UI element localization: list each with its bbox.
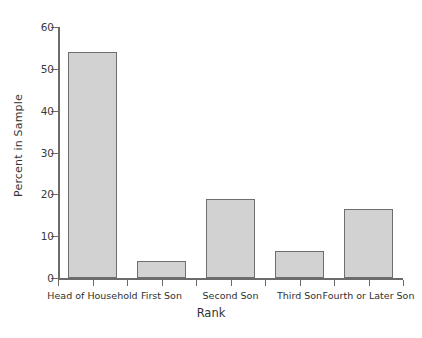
x-tick-mark-center: [369, 280, 370, 286]
x-tick-mark-center: [231, 280, 232, 286]
y-tick-label: 0: [47, 272, 54, 284]
x-tick-mark-center: [300, 280, 301, 286]
x-tick-mark: [58, 280, 59, 286]
x-category-label: Head of Household: [47, 290, 137, 301]
plot-area: 0102030405060 Head of HouseholdFirst Son…: [58, 27, 403, 278]
x-tick-mark: [127, 280, 128, 286]
x-category-label: First Son: [141, 290, 182, 301]
y-axis-line: [58, 27, 60, 278]
y-axis-title: Percent in Sample: [6, 0, 32, 290]
y-tick-label: 50: [41, 63, 54, 75]
x-category-label: Second Son: [203, 290, 259, 301]
x-tick-mark: [334, 280, 335, 286]
x-tick-mark: [265, 280, 266, 286]
x-tick-mark-center: [162, 280, 163, 286]
y-axis-title-text: Percent in Sample: [13, 93, 26, 196]
x-tick-mark: [196, 280, 197, 286]
x-tick-mark-center: [93, 280, 94, 286]
y-tick-label: 20: [41, 188, 54, 200]
x-category-label: Third Son: [277, 290, 322, 301]
bar: [344, 209, 394, 278]
y-tick-label: 10: [41, 230, 54, 242]
bar-chart-figure: Percent in Sample 0102030405060 Head of …: [0, 0, 422, 338]
y-tick-label: 30: [41, 147, 54, 159]
x-axis-title: Rank: [0, 306, 422, 320]
y-tick-label: 40: [41, 105, 54, 117]
x-category-label: Fourth or Later Son: [323, 290, 415, 301]
y-tick-label: 60: [41, 21, 54, 33]
x-tick-mark: [403, 280, 404, 286]
bar: [206, 199, 256, 278]
bar: [137, 261, 187, 278]
bar: [275, 251, 325, 278]
bar: [68, 52, 118, 278]
